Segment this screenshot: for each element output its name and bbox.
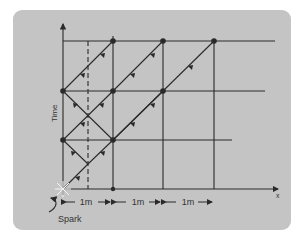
spacetime-diagram: 1m 1m 1m Spark x Time bbox=[0, 0, 301, 237]
spark-icon bbox=[55, 181, 71, 197]
spark-label: Spark bbox=[58, 214, 82, 224]
spacing-label-3: 1m bbox=[182, 197, 195, 207]
time-axis-label: Time bbox=[50, 104, 59, 122]
spark-pointer-arrow bbox=[49, 198, 56, 212]
spacing-label-1: 1m bbox=[80, 197, 93, 207]
spacing-label-2: 1m bbox=[132, 197, 145, 207]
x-axis-label: x bbox=[276, 192, 280, 199]
